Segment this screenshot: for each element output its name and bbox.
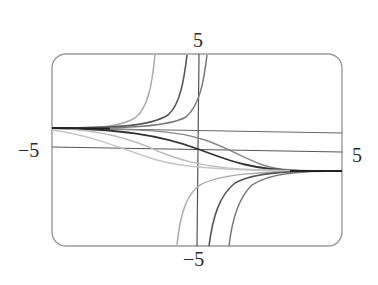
y-max-label: 5 xyxy=(193,30,203,50)
left-convergence-emphasis xyxy=(52,128,110,129)
curve-blowdown-1 xyxy=(177,171,342,245)
x-max-label: 5 xyxy=(352,145,362,165)
x-min-label: −5 xyxy=(18,140,39,160)
curve-blowdown-3 xyxy=(229,171,342,246)
solution-curves-plot xyxy=(0,0,378,285)
curve-blowup-1 xyxy=(52,55,155,128)
curve-sigmoid-4 xyxy=(52,130,342,171)
y-min-label: −5 xyxy=(183,249,204,269)
curve-sigmoid-2 xyxy=(52,128,342,171)
curve-blowdown-2 xyxy=(209,171,342,246)
curve-blowup-3 xyxy=(52,55,207,128)
curve-blowup-2 xyxy=(52,55,187,128)
